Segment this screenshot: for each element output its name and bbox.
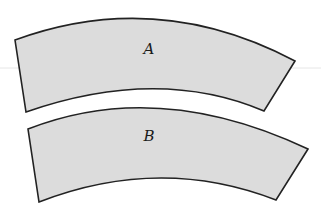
shape-a-group: A <box>15 18 295 112</box>
annular-sector-a <box>15 18 295 112</box>
diagram-canvas: A B <box>0 0 321 213</box>
label-b: B <box>142 127 154 145</box>
shape-b-group: B <box>28 108 308 202</box>
label-a: A <box>142 40 155 58</box>
annular-sector-b <box>28 108 308 202</box>
